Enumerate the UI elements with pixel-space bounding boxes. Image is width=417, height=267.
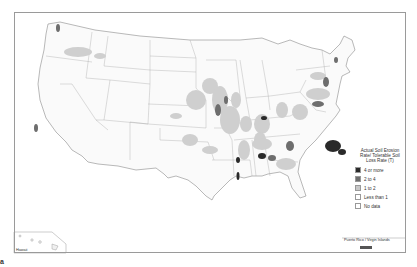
- us-map: [0, 0, 417, 267]
- legend-item-less-than-1: Less than 1: [355, 194, 405, 200]
- legend-label: Less than 1: [364, 195, 388, 200]
- swatch-icon: [355, 176, 361, 182]
- legend-item-4-or-more: 4 or more: [355, 167, 405, 173]
- legend-title: Actual Soil Erosion Rate/ Tolerable Soil…: [355, 148, 405, 163]
- puerto-rico-shape: [360, 246, 372, 249]
- swatch-icon: [355, 203, 361, 209]
- legend-label: 4 or more: [364, 168, 384, 173]
- legend-label: 1 to 2: [364, 186, 376, 191]
- legend-label: No data: [364, 204, 380, 209]
- swatch-icon: [355, 185, 361, 191]
- hawaii-label: Hawaii: [16, 248, 27, 252]
- legend-label: 2 to 4: [364, 177, 376, 182]
- swatch-icon: [355, 167, 361, 173]
- legend: Actual Soil Erosion Rate/ Tolerable Soil…: [355, 148, 405, 212]
- legend-item-1-to-2: 1 to 2: [355, 185, 405, 191]
- legend-item-2-to-4: 2 to 4: [355, 176, 405, 182]
- puerto-rico-label: Puerto Rico / Virgin Islands: [344, 238, 390, 242]
- figure-label: a: [0, 258, 4, 265]
- legend-item-no-data: No data: [355, 203, 405, 209]
- swatch-icon: [355, 194, 361, 200]
